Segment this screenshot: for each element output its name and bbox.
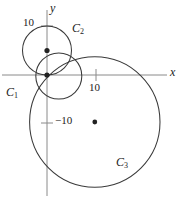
- circle-c1: [36, 53, 82, 99]
- curve-label-c2-base: C: [72, 21, 80, 35]
- curve-label-c3-base: C: [116, 155, 124, 169]
- y-tick-label-10: 10: [23, 17, 34, 28]
- figure-canvas: x y 10 10 −10 C1 C2 C3: [0, 0, 187, 201]
- curve-label-c2: C2: [72, 22, 84, 34]
- point-c2-center: [44, 48, 49, 53]
- y-axis-label: y: [50, 2, 55, 14]
- x-tick-label-10: 10: [89, 82, 100, 93]
- geometry-plot: [0, 0, 187, 201]
- curve-label-c1-sub: 1: [14, 91, 18, 100]
- point-origin: [44, 72, 49, 77]
- curve-label-c1-base: C: [6, 85, 14, 99]
- curve-label-c3: C3: [116, 156, 128, 168]
- point-c3-center: [92, 120, 97, 125]
- curve-label-c3-sub: 3: [124, 161, 128, 170]
- x-axis-label: x: [170, 66, 175, 78]
- curve-label-c1: C1: [6, 86, 18, 98]
- y-tick-label-neg10: −10: [55, 115, 72, 126]
- curve-label-c2-sub: 2: [80, 27, 84, 36]
